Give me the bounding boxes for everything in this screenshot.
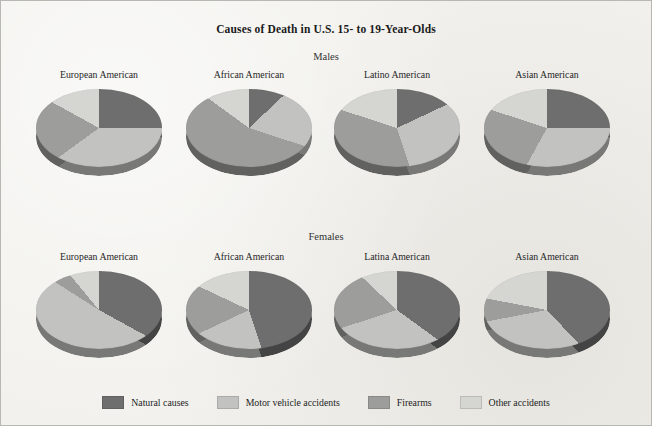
pie-category-label: European American [23,69,175,80]
pie-panel-females-asian-american: Asian American [471,251,623,381]
legend-swatch-icon [217,396,239,409]
legend-swatch-icon [460,396,482,409]
pie-top-face [484,89,610,167]
pie-category-label: European American [23,251,175,262]
pie-chart[interactable] [186,271,312,363]
pie-chart[interactable] [334,89,460,181]
legend-label: Motor vehicle accidents [246,397,340,408]
pie-top-face [36,89,162,167]
group-label-females: Females [1,231,651,242]
legend-item-other-accidents[interactable]: Other accidents [460,396,550,409]
pie-chart[interactable] [36,271,162,363]
pie-category-label: Latina American [321,251,473,262]
pie-panel-females-african-american: African American [173,251,325,381]
pie-panel-males-asian-american: Asian American [471,69,623,199]
chart-title: Causes of Death in U.S. 15- to 19-Year-O… [1,23,651,35]
pie-top-face [186,271,312,349]
legend-swatch-icon [102,396,124,409]
legend-item-motor-vehicle-accidents[interactable]: Motor vehicle accidents [217,396,340,409]
pie-top-face [334,271,460,349]
pie-category-label: African American [173,251,325,262]
pie-chart[interactable] [484,271,610,363]
group-label-males: Males [1,51,651,62]
legend-label: Firearms [397,397,432,408]
legend-label: Natural causes [131,397,188,408]
pie-category-label: Asian American [471,69,623,80]
pie-top-face [36,271,162,349]
pie-panel-females-latina-american: Latina American [321,251,473,381]
pie-chart[interactable] [334,271,460,363]
legend: Natural causes Motor vehicle accidents F… [1,396,651,409]
pie-chart[interactable] [36,89,162,181]
pie-top-face [186,89,312,167]
pie-category-label: Latino American [321,69,473,80]
pie-category-label: African American [173,69,325,80]
pie-panel-males-european-american: European American [23,69,175,199]
legend-item-natural-causes[interactable]: Natural causes [102,396,188,409]
legend-item-firearms[interactable]: Firearms [368,396,432,409]
pie-chart[interactable] [186,89,312,181]
pie-top-face [484,271,610,349]
pie-panel-males-african-american: African American [173,69,325,199]
pie-panel-males-latino-american: Latino American [321,69,473,199]
legend-swatch-icon [368,396,390,409]
legend-label: Other accidents [489,397,550,408]
pie-top-face [334,89,460,167]
pie-row-males: European American African American Latin… [1,69,651,199]
pie-panel-females-european-american: European American [23,251,175,381]
pie-row-females: European American African American Latin… [1,251,651,381]
pie-category-label: Asian American [471,251,623,262]
pie-chart[interactable] [484,89,610,181]
figure-panel: Causes of Death in U.S. 15- to 19-Year-O… [0,0,652,426]
